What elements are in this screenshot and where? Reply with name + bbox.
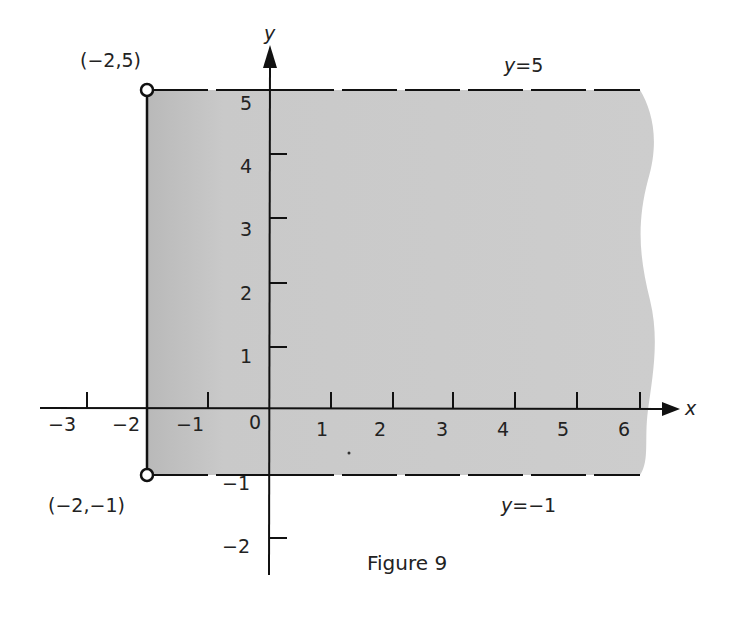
- shaded-region: [147, 90, 655, 475]
- y-axis: [269, 62, 270, 575]
- y-tick-label: −2: [222, 535, 250, 557]
- point-neg2-neg1-open-circle-icon: [141, 469, 153, 481]
- x-tick-label: −3: [48, 413, 76, 435]
- y-tick-label: 3: [240, 218, 252, 240]
- x-axis-label: x: [684, 397, 697, 419]
- x-tick-label: 6: [618, 418, 630, 440]
- y-axis-label: y: [263, 22, 276, 44]
- x-tick-label: 4: [497, 418, 509, 440]
- x-tick-label: 2: [374, 418, 386, 440]
- point-label-neg2-neg1: (−2,−1): [48, 494, 125, 516]
- y-tick-label: 4: [240, 155, 252, 177]
- x-axis: [40, 408, 668, 409]
- boundary-label-y5: y=5: [503, 54, 543, 76]
- x-axis-arrow-icon: [662, 402, 680, 416]
- figure-caption: Figure 9: [367, 551, 447, 575]
- x-tick-label: 3: [436, 418, 448, 440]
- figure-canvas: y x −3 −2 −1 0 1 2 3 4 5 6 5 4 3 2 1 −1 …: [0, 0, 734, 617]
- y-axis-arrow-icon: [263, 45, 277, 68]
- y-tick-label: 5: [240, 92, 252, 114]
- x-tick-label: 0: [249, 411, 261, 433]
- point-label-neg2-5: (−2,5): [80, 49, 141, 71]
- x-tick-label: −1: [176, 413, 204, 435]
- y-tick-label: 2: [240, 282, 252, 304]
- y-tick-label: 1: [240, 345, 252, 367]
- point-neg2-5-open-circle-icon: [141, 84, 153, 96]
- x-tick-label: 5: [557, 418, 569, 440]
- x-tick-label: 1: [316, 418, 328, 440]
- boundary-label-y-neg1: y=−1: [500, 494, 556, 516]
- y-tick-label: −1: [222, 472, 250, 494]
- x-tick-label: −2: [112, 413, 140, 435]
- speck-dot: [348, 452, 351, 455]
